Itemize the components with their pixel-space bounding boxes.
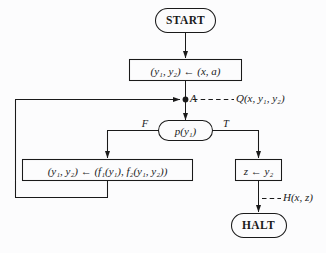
edge-true-branch [213, 131, 259, 159]
start-node-label: START [166, 15, 205, 27]
test-node-label: p(y₁) [175, 126, 197, 137]
flowchart-edges-layer [0, 0, 326, 253]
junction-dot-a [183, 97, 189, 103]
edge-false-branch [108, 131, 159, 159]
halt-node-label: HALT [242, 220, 275, 232]
output-node-label: z ← y₂ [244, 165, 274, 176]
edge-loop-back-to-junction [16, 100, 181, 198]
true-branch-label: T [223, 119, 229, 130]
false-branch-label: F [142, 119, 148, 130]
invariant-assertion-label: Q(x, y₁, y₂) [236, 93, 285, 104]
junction-label-a: A [190, 93, 197, 104]
flowchart-diagram: START (y₁, y₂) ← (x, a) A Q(x, y₁, y₂) p… [0, 0, 326, 253]
update-node-label: (y₁, y₂) ← (f₁(y₁), f₂(y₁, y₂)) [48, 165, 168, 176]
init-node-label: (y₁, y₂) ← (x, a) [151, 65, 221, 76]
postcondition-assertion-label: H(x, z) [283, 192, 313, 203]
